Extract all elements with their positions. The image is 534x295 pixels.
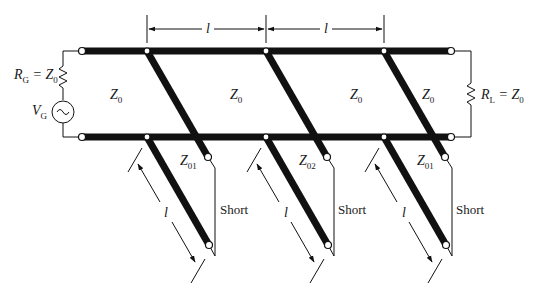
spacing-label: l: [324, 22, 328, 36]
source-resistor-label: RG = Z0: [14, 68, 58, 82]
main-line: [82, 51, 451, 137]
stub-upper-conductors: [147, 51, 445, 157]
rl-subscript: L: [490, 95, 496, 105]
rl-symbol: R: [481, 87, 490, 102]
stub-impedance-label: Z01: [180, 154, 197, 168]
rg-symbol: R: [14, 67, 23, 82]
stub-impedance-label: Z01: [417, 154, 434, 168]
load-resistor-label: RL = Z0: [481, 88, 524, 102]
rg-equals: = Z: [29, 67, 53, 82]
stub-length-label: l: [284, 206, 288, 220]
stub-termination-label: Short: [220, 203, 248, 216]
vg-subscript: G: [41, 111, 48, 121]
stub-length-label: l: [164, 206, 168, 220]
stub-impedance-label: Z02: [299, 154, 316, 168]
rg-subscript: G: [23, 75, 30, 85]
rl-equals: = Z: [495, 87, 519, 102]
vg-symbol: V: [32, 103, 41, 118]
transmission-line-schematic: [0, 0, 534, 295]
section-impedance-label: Z0: [110, 88, 122, 102]
stub-length-label: l: [402, 206, 406, 220]
rg-z0-subscript: 0: [53, 75, 58, 85]
section-impedance-label: Z0: [230, 88, 242, 102]
section-impedance-label: Z0: [350, 88, 362, 102]
load-circuit: [451, 51, 475, 137]
stub-termination-label: Short: [456, 203, 484, 216]
load-resistor-icon: [467, 83, 475, 105]
source-voltage-label: VG: [32, 104, 47, 118]
source-resistor-icon: [59, 66, 67, 88]
stub-termination-label: Short: [338, 203, 366, 216]
spacing-dimensions: [147, 15, 384, 43]
rl-z0-subscript: 0: [519, 95, 524, 105]
section-impedance-label: Z0: [422, 88, 434, 102]
spacing-label: l: [206, 22, 210, 36]
source-circuit: [52, 51, 82, 137]
